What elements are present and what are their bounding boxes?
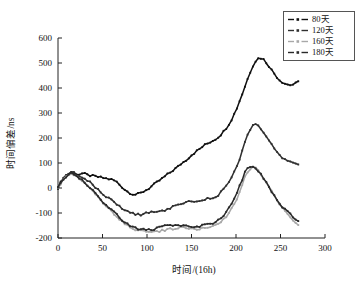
series-marker (94, 192, 96, 194)
series-marker (247, 167, 249, 169)
y-tick-label: 600 (39, 33, 53, 43)
legend-label: 80天 (312, 15, 330, 24)
series-marker (119, 205, 121, 207)
series-marker (161, 177, 163, 179)
x-tick-label: 150 (185, 243, 199, 253)
series-marker (177, 228, 179, 230)
series-marker (81, 179, 83, 181)
series-marker (297, 164, 299, 166)
series-marker (68, 174, 70, 176)
series-marker (273, 148, 275, 150)
series-marker (153, 229, 155, 231)
series-marker (164, 175, 166, 177)
x-tick-label: 50 (98, 243, 108, 253)
series-marker (156, 211, 158, 213)
x-tick-label: 250 (274, 243, 288, 253)
legend-item-120天[interactable]: 120天 (287, 25, 351, 36)
series-marker (236, 192, 238, 194)
series-marker (185, 160, 187, 162)
series-marker (263, 132, 265, 134)
y-tick-label: 0 (48, 183, 53, 193)
series-marker (236, 108, 238, 110)
series-marker (207, 197, 209, 199)
series-marker (295, 222, 297, 224)
series-marker (111, 178, 113, 180)
series-marker (183, 226, 185, 228)
series-marker (116, 181, 118, 183)
series-marker (188, 157, 190, 159)
series-marker (113, 211, 115, 213)
series-marker (169, 172, 171, 174)
series-marker (287, 213, 289, 215)
series-marker (86, 180, 88, 182)
series-marker (201, 200, 203, 202)
series-marker (137, 192, 139, 194)
series-marker (257, 171, 259, 173)
series-marker (241, 184, 243, 186)
series-marker (140, 228, 142, 230)
legend-item-80天[interactable]: 80天 (287, 14, 351, 25)
series-marker (62, 179, 64, 181)
y-tick-label: 500 (39, 58, 53, 68)
series-marker (169, 208, 171, 210)
series-marker (188, 200, 190, 202)
series-marker (276, 77, 278, 79)
series-marker (169, 224, 171, 226)
series-marker (65, 177, 67, 179)
series-line (58, 58, 298, 194)
series-marker (201, 224, 203, 226)
series-marker (148, 228, 150, 230)
chart-axes: -200-10001002003004005006000501001502002… (36, 33, 333, 253)
series-marker (215, 221, 217, 223)
series-line (58, 124, 298, 215)
series-marker (159, 180, 161, 182)
series-marker (276, 151, 278, 153)
series-marker (132, 212, 134, 214)
series-marker (78, 175, 80, 177)
series-marker (265, 62, 267, 64)
series-marker (129, 212, 131, 214)
series-marker (217, 219, 219, 221)
x-axis-label: 时间/(16h) (0, 262, 364, 276)
series-marker (172, 225, 174, 227)
series-marker (287, 210, 289, 212)
y-axis-label: 时间偏差/ns (2, 96, 18, 192)
series-marker (57, 186, 59, 188)
series-marker (289, 84, 291, 86)
series-marker (284, 83, 286, 85)
series-marker (209, 223, 211, 225)
series-marker (201, 227, 203, 229)
series-marker (252, 124, 254, 126)
series-marker (183, 161, 185, 163)
series-marker (180, 225, 182, 227)
x-tick-label: 200 (229, 243, 243, 253)
series-marker (239, 191, 241, 193)
legend-label: 180天 (312, 48, 334, 57)
series-marker (199, 148, 201, 150)
series-marker (244, 171, 246, 173)
legend-item-180天[interactable]: 180天 (287, 47, 351, 58)
series-marker (108, 197, 110, 199)
series-marker (244, 141, 246, 143)
series-marker (284, 158, 286, 160)
series-marker (60, 182, 62, 184)
legend-marker-icon (287, 37, 309, 46)
legend-item-160天[interactable]: 160天 (287, 36, 351, 47)
series-marker (132, 228, 134, 230)
series-marker (145, 212, 147, 214)
series-marker (297, 224, 299, 226)
series-marker (100, 199, 102, 201)
series-marker (175, 224, 177, 226)
series-marker (281, 157, 283, 159)
series-marker (247, 172, 249, 174)
series-marker (100, 192, 102, 194)
series-marker (239, 100, 241, 102)
series-marker (191, 226, 193, 228)
series-marker (204, 223, 206, 225)
series-marker (135, 214, 137, 216)
series-marker (225, 185, 227, 187)
y-tick-label: -200 (36, 233, 53, 243)
y-tick-label: 400 (39, 83, 53, 93)
series-marker (159, 210, 161, 212)
series-marker (239, 159, 241, 161)
